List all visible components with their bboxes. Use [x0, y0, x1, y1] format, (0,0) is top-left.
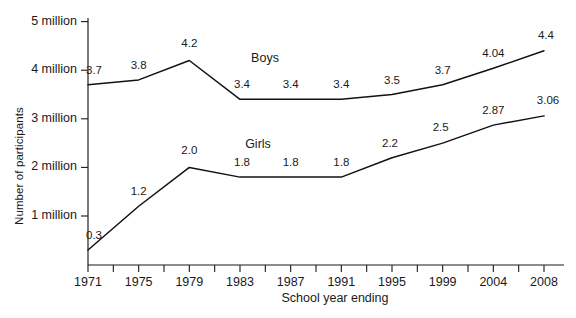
data-point-label: 4.4	[530, 30, 562, 42]
y-axis-title: Number of participants	[14, 107, 26, 225]
series-line-girls	[88, 116, 544, 250]
series-group	[88, 51, 544, 250]
y-tick-label: 3 million	[0, 112, 77, 125]
data-point-label: 1.8	[325, 157, 357, 169]
series-annotation-girls: Girls	[228, 138, 288, 151]
data-point-label: 1.2	[123, 186, 155, 198]
data-point-label: 3.4	[275, 79, 307, 91]
chart-container: 1 million2 million3 million4 million5 mi…	[0, 0, 576, 318]
series-annotation-boys: Boys	[235, 52, 295, 65]
series-line-boys	[88, 51, 544, 100]
data-point-label: 3.5	[376, 75, 408, 87]
data-point-label: 3.7	[427, 65, 459, 77]
data-point-label: 3.4	[226, 79, 258, 91]
y-tick-label: 5 million	[0, 15, 77, 28]
data-point-label: 3.4	[325, 79, 357, 91]
data-point-label: 1.8	[275, 157, 307, 169]
y-tick-label: 2 million	[0, 160, 77, 173]
data-point-label: 4.2	[173, 38, 205, 50]
y-axis-ticks	[81, 22, 88, 216]
data-point-label: 2.87	[477, 105, 509, 117]
data-point-label: 2.2	[374, 138, 406, 150]
data-point-label: 3.8	[123, 60, 155, 72]
data-point-label: 4.04	[477, 48, 509, 60]
data-point-label: 2.5	[425, 122, 457, 134]
x-axis-title: School year ending	[270, 292, 400, 305]
data-point-label: 0.3	[78, 230, 110, 242]
x-tick-label: 2008	[514, 276, 574, 289]
y-tick-label: 1 million	[0, 209, 77, 222]
x-axis-ticks	[88, 265, 544, 272]
data-point-label: 1.8	[226, 157, 258, 169]
data-point-label: 3.7	[78, 65, 110, 77]
y-tick-label: 4 million	[0, 63, 77, 76]
data-point-label: 3.06	[532, 95, 564, 107]
data-point-label: 2.0	[173, 145, 205, 157]
